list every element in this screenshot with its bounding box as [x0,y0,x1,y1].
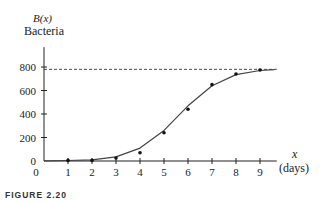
x-tick-label: 4 [137,166,143,178]
data-point [234,72,238,76]
x-tick-label: 7 [209,166,215,178]
x-tick-label: 2 [89,166,95,178]
logistic-curve [44,70,274,161]
x-tick-label: 9 [257,166,263,178]
x-tick-label: 3 [113,166,119,178]
y-tick-label: 200 [20,132,37,144]
x-axis-variable-label: x [292,148,297,160]
data-point [138,151,142,155]
x-tick-label: 6 [185,166,191,178]
data-point [66,159,70,163]
data-point [186,108,190,112]
x-tick-label: 1 [65,166,71,178]
figure-caption: FIGURE 2.20 [5,190,67,200]
y-tick-label: 400 [20,108,37,120]
y-tick-label: 600 [20,85,37,97]
data-point [114,156,118,160]
x-axis-unit-label: (days) [279,162,309,174]
x-tick-label: 5 [161,166,167,178]
data-point [162,131,166,135]
data-point [210,83,214,87]
x-tick-label: 8 [233,166,239,178]
data-point [258,68,262,72]
x-tick-label: 0 [33,166,39,178]
y-axis-title: Bacteria [24,25,64,37]
data-point [90,159,94,163]
y-axis-function-label: B(x) [33,12,52,24]
y-tick-label: 800 [20,61,37,73]
